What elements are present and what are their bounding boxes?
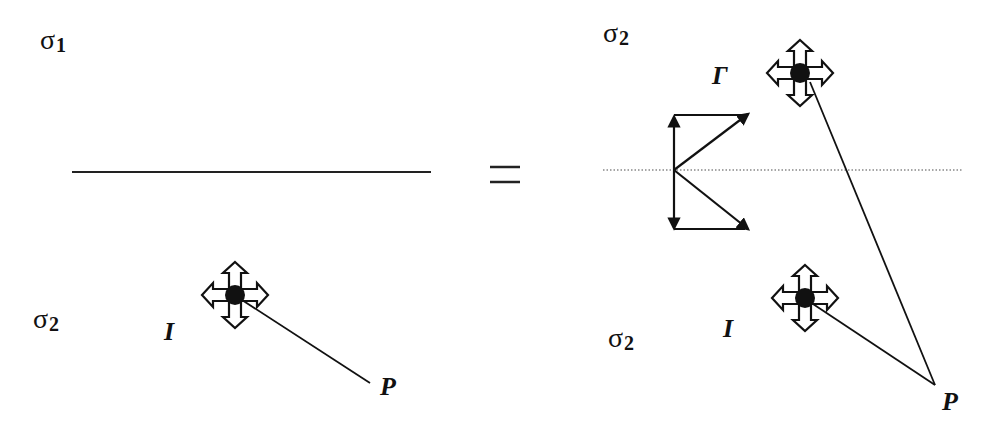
right-panel: σ2 Γ σ2 I P (603, 17, 962, 416)
image-source-cross-icon (767, 40, 833, 106)
source-cross-icon-right (772, 265, 838, 331)
source-cross-icon (202, 262, 268, 328)
image-ray-line (810, 82, 935, 385)
point-label-P-right: P (941, 387, 959, 416)
sigma-2-label-top-right: σ2 (603, 17, 629, 49)
image-source-label-gamma: Γ (711, 61, 728, 90)
mirror-arrows-icon (674, 114, 748, 229)
source-label-I-right: I (722, 314, 734, 343)
diagram-canvas: σ1 σ2 I P σ2 Γ σ2 I (0, 0, 989, 426)
direct-ray-line (813, 304, 935, 385)
sigma-2-label-bottom-right: σ2 (608, 322, 634, 354)
point-label-P: P (379, 372, 397, 401)
left-panel: σ1 σ2 I P (33, 24, 431, 401)
sigma-1-label: σ1 (40, 24, 66, 56)
sigma-2-label-left: σ2 (33, 303, 59, 335)
source-label-I: I (163, 317, 175, 346)
equals-sign (490, 167, 520, 182)
ray-line (242, 300, 370, 383)
